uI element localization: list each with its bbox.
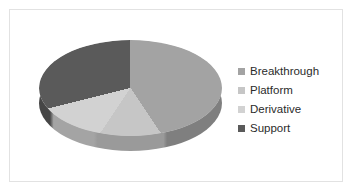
legend-swatch-icon [238,106,245,113]
legend-swatch-icon [238,68,245,75]
legend-swatch-icon [238,125,245,132]
chart-screenshot: Breakthrough Platform Derivative Support [0,0,354,194]
chart-frame: Breakthrough Platform Derivative Support [9,9,343,182]
legend-item-label: Breakthrough [250,66,319,78]
pie-chart [30,28,230,168]
pie-top-face [39,40,222,136]
legend-item-derivative[interactable]: Derivative [238,100,346,119]
legend-item-breakthrough[interactable]: Breakthrough [238,62,346,81]
legend-item-label: Platform [250,85,293,97]
legend-item-label: Support [250,123,290,135]
pie-slices [39,40,222,136]
legend-swatch-icon [238,87,245,94]
legend-item-platform[interactable]: Platform [238,81,346,100]
legend-item-label: Derivative [250,104,301,116]
legend-item-support[interactable]: Support [238,119,346,138]
legend: Breakthrough Platform Derivative Support [238,62,346,138]
pie-3d-stack [30,28,216,138]
